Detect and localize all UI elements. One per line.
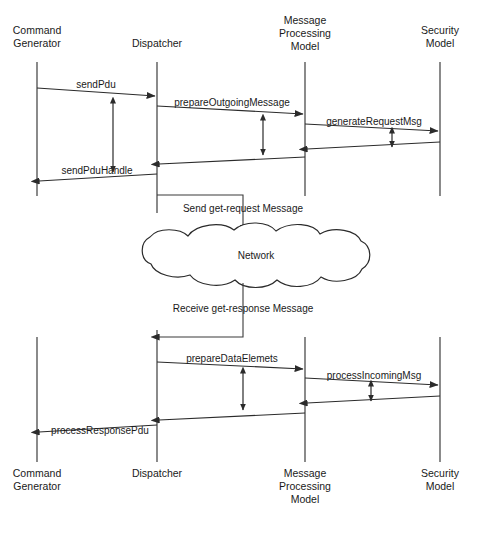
actor-label-security-line2: Model: [426, 37, 455, 49]
arrow-security-return-lower: [307, 396, 440, 403]
msg-label-process-incoming-msg: processIncomingMsg: [327, 370, 421, 381]
msg-label-generate-request-msg: generateRequestMsg: [326, 116, 422, 127]
actor-label-mpm-line1: Message: [284, 14, 327, 26]
actor-label-mpm-line2: Processing: [279, 27, 331, 39]
actor-label-mpm-line3: Model: [291, 40, 320, 52]
network-cloud-label: Network: [238, 250, 276, 261]
actor-footer-label-mpm-line3: Model: [291, 493, 320, 505]
arrow-security-return: [307, 142, 440, 149]
actor-label-command-generator-line2: Generator: [13, 37, 61, 49]
actor-label-dispatcher-line1: Dispatcher: [132, 37, 183, 49]
actor-header-command-generator: Command Generator: [13, 24, 62, 49]
actor-footer-label-security-line1: Security: [421, 467, 460, 479]
actor-footer-dispatcher: Dispatcher: [132, 467, 183, 479]
note-send-get-request: Send get-request Message: [183, 203, 304, 214]
actor-footer-label-command-generator-line2: Generator: [13, 480, 61, 492]
msg-label-send-pdu-handle: sendPduHandle: [61, 165, 133, 176]
msg-label-send-pdu: sendPdu: [76, 79, 115, 90]
msg-label-process-response-pdu: processResponsePdu: [51, 425, 149, 436]
sequence-diagram: Command Generator Dispatcher Message Pro…: [0, 0, 477, 533]
actor-footer-label-command-generator-line1: Command: [13, 467, 62, 479]
actor-header-message-processing-model: Message Processing Model: [279, 14, 331, 52]
actor-label-security-line1: Security: [421, 24, 460, 36]
actor-footer-label-mpm-line1: Message: [284, 467, 327, 479]
actor-footer-label-mpm-line2: Processing: [279, 480, 331, 492]
actor-label-command-generator-line1: Command: [13, 24, 62, 36]
sequence-diagram-canvas: Command Generator Dispatcher Message Pro…: [0, 0, 477, 533]
actor-footer-label-security-line2: Model: [426, 480, 455, 492]
actor-footer-security-model: Security Model: [421, 467, 460, 492]
actor-header-security-model: Security Model: [421, 24, 460, 49]
actor-header-dispatcher: Dispatcher: [132, 37, 183, 49]
actor-footer-message-processing-model: Message Processing Model: [279, 467, 331, 505]
actor-footer-command-generator: Command Generator: [13, 467, 62, 492]
actor-footer-label-dispatcher-line1: Dispatcher: [132, 467, 183, 479]
msg-label-prepare-data-elemets: prepareDataElemets: [186, 353, 278, 364]
note-receive-get-response: Receive get-response Message: [173, 303, 314, 314]
arrow-mpm-return: [159, 157, 305, 164]
arrow-mpm-return-lower: [159, 413, 305, 420]
msg-label-prepare-outgoing-message: prepareOutgoingMessage: [174, 97, 290, 108]
